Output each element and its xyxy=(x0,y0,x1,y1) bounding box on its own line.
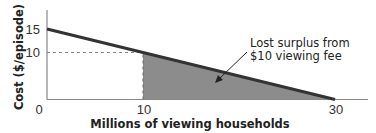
x-tick-0: 0 xyxy=(35,102,42,117)
annotation-line-2: $10 viewing fee xyxy=(250,49,342,63)
chart: 15 10 0 10 30 Millions of viewing househ… xyxy=(0,0,376,133)
y-tick-10: 10 xyxy=(26,45,40,60)
y-axis-title: Cost ($/episode) xyxy=(12,4,26,110)
x-axis-title: Millions of viewing households xyxy=(90,117,289,131)
x-tick-30: 30 xyxy=(329,102,343,117)
y-tick-15: 15 xyxy=(26,22,40,37)
annotation-line-1: Lost surplus from xyxy=(250,36,350,50)
x-tick-10: 10 xyxy=(137,102,151,117)
